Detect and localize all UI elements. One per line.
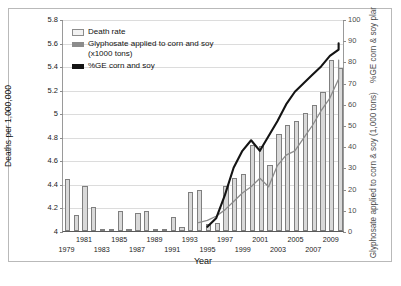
- y-axis-right-title: Glyphosate applied to corn & soy (1,000 …: [370, 0, 378, 258]
- x-axis-tick-label: 1983: [94, 246, 110, 253]
- x-axis-tick-label: 1995: [199, 246, 215, 253]
- y-axis-right-tick-mark: [343, 232, 346, 233]
- y-axis-right-tick-mark: [343, 211, 346, 212]
- y-axis-right-tick-label: 60: [348, 101, 356, 109]
- y-axis-right-tick-label: 100: [348, 16, 361, 24]
- y-axis-left-tick-label: 4.2: [48, 205, 58, 213]
- x-axis-tick-label: 1999: [235, 246, 251, 253]
- x-axis-tick-label: 1985: [111, 236, 127, 243]
- y-axis-right-tick-label: 0: [348, 228, 352, 236]
- chart-figure: Deaths per 1,000,000 Glyphosate applied …: [0, 0, 401, 286]
- x-axis-tick-label: 2003: [270, 246, 286, 253]
- legend-item-death-rate: Death rate: [72, 27, 223, 38]
- y-axis-right-tick-label: 40: [348, 143, 356, 151]
- x-axis-tick-label: 2007: [305, 246, 321, 253]
- y-axis-right-tick-label: 80: [348, 59, 356, 67]
- y-axis-left-tick-label: 5.8: [48, 16, 58, 24]
- y-axis-left-title: Deaths per 1,000,000: [4, 85, 13, 167]
- y-axis-right-tick-mark: [343, 41, 346, 42]
- y-axis-left-tick-label: 4.8: [48, 134, 58, 142]
- y-axis-left-tick-label: 5.6: [48, 40, 58, 48]
- y-axis-right-title-line2: %GE corn & soy planted: [369, 0, 378, 83]
- y-axis-left-tick-label: 4: [54, 228, 58, 236]
- y-axis-left-tick-label: 5.2: [48, 87, 58, 95]
- x-axis-tick-label: 1979: [58, 246, 74, 253]
- legend-label-glyphosate: Glyphosate applied to corn and soy (x100…: [88, 39, 223, 60]
- x-axis-title: Year: [62, 257, 344, 266]
- legend-label-percent-ge: %GE corn and soy: [88, 61, 155, 72]
- y-axis-right-tick-label: 30: [348, 165, 356, 173]
- line-glyphosate: [199, 60, 339, 222]
- y-axis-right-tick-mark: [343, 105, 346, 106]
- y-axis-right-tick-label: 10: [348, 207, 356, 215]
- y-axis-right-tick-label: 50: [348, 122, 356, 130]
- x-axis-tick-label: 1997: [217, 236, 233, 243]
- y-axis-left-tick-label: 5: [54, 110, 58, 118]
- y-axis-right-tick-mark: [343, 168, 346, 169]
- y-axis-right-tick-mark: [343, 20, 346, 21]
- caption-fragment: [170, 269, 392, 278]
- x-axis-tick-label: 2009: [323, 236, 339, 243]
- x-axis-tick-label: 1993: [182, 236, 198, 243]
- legend-item-percent-ge: %GE corn and soy: [72, 61, 223, 72]
- legend-swatch-gray-line-icon: [72, 42, 84, 47]
- y-axis-right-tick-mark: [343, 126, 346, 127]
- x-axis-tick-label: 1987: [129, 246, 145, 253]
- y-axis-left-tick-mark: [60, 232, 63, 233]
- y-axis-right-tick-label: 20: [348, 186, 356, 194]
- legend-swatch-bar-icon: [72, 29, 84, 36]
- y-axis-left-tick-label: 4.6: [48, 158, 58, 166]
- y-axis-right-title-line1: Glyphosate applied to corn & soy (1,000 …: [369, 92, 378, 258]
- y-axis-right-tick-mark: [343, 62, 346, 63]
- y-axis-right-tick-mark: [343, 84, 346, 85]
- x-axis-tick-label: 2001: [252, 236, 268, 243]
- chart-legend: Death rate Glyphosate applied to corn an…: [72, 27, 223, 72]
- y-axis-right-tick-mark: [343, 147, 346, 148]
- x-axis-tick-label: 2005: [288, 236, 304, 243]
- legend-item-glyphosate: Glyphosate applied to corn and soy (x100…: [72, 39, 223, 60]
- legend-swatch-black-line-icon: [72, 64, 84, 69]
- y-axis-left-tick-label: 4.4: [48, 181, 58, 189]
- legend-label-death-rate: Death rate: [88, 27, 125, 38]
- line-percent-ge: [207, 43, 338, 227]
- x-axis-tick-label: 1981: [76, 236, 92, 243]
- y-axis-left-tick-label: 5.4: [48, 63, 58, 71]
- y-axis-right-tick-label: 70: [348, 80, 356, 88]
- y-axis-right-tick-mark: [343, 190, 346, 191]
- y-axis-right-tick-label: 90: [348, 37, 356, 45]
- scan-margin-top: [0, 0, 401, 7]
- x-axis-tick-label: 1989: [147, 236, 163, 243]
- x-axis-tick-label: 1991: [164, 246, 180, 253]
